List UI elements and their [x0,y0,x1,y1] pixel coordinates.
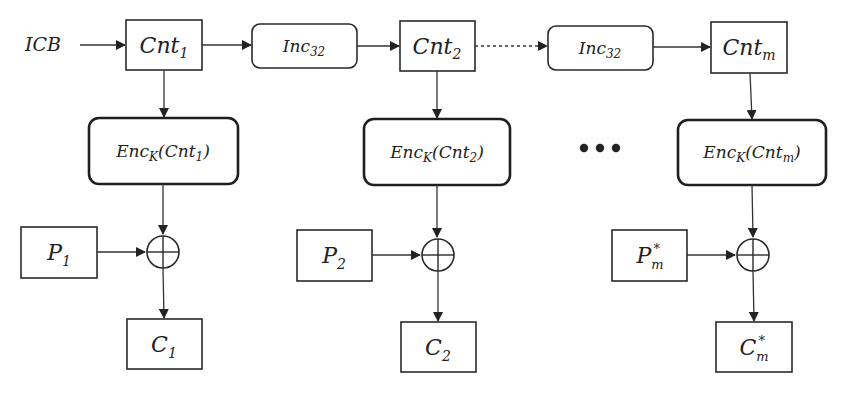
c1-sub: 1 [168,345,177,361]
cnt2-sub: 2 [451,46,461,62]
ellipsis-dots-icon [580,144,620,152]
p2-sub: 2 [336,256,346,272]
xor-icon-1 [147,236,179,268]
inc2-base: Inc [578,38,607,58]
enc2-arg: Cnt [439,142,470,162]
svg-text:Pm*: Pm* [635,241,663,272]
pm-base: P [635,243,652,268]
arrow-encm-to-xorm [752,185,753,237]
cm-base: C [739,335,756,360]
encm-base: Enc [702,142,736,162]
cnt2-base: Cnt [413,34,453,59]
pm-sub: m [651,257,663,272]
ciphertext-cm-star: Cm* [716,322,792,372]
arrow-xor1-to-c1 [163,268,164,318]
cntm-base: Cnt [722,35,762,60]
arrow-xorm-to-cm [753,271,754,321]
cm-sub: m [756,349,768,364]
plaintext-pm-star: Pm* [612,230,687,281]
c2-sub: 2 [441,348,451,364]
svg-text:Cm*: Cm* [739,333,768,364]
pm-sup: * [654,241,661,256]
counter-cntm: Cntm [711,22,787,73]
cntm-sub: m [762,47,775,63]
enc-block-1: EncK(Cnt1) [89,118,238,184]
plaintext-p2: P2 [297,230,372,281]
counter-cnt1: Cnt1 [126,20,202,70]
enc2-base: Enc [389,142,423,162]
inc1-sub: 32 [310,45,325,59]
c2-base: C [425,335,442,360]
c1-base: C [151,332,168,357]
encm-arg: Cnt [752,142,783,162]
p1-base: P [46,240,63,265]
enc1-arg: Cnt [165,141,196,161]
cm-sup: * [759,333,766,348]
increment-inc32-2: Inc32 [548,26,653,70]
xor-icon-m [737,239,769,271]
enc-block-2: EncK(Cnt2) [364,119,510,185]
plaintext-p1: P1 [21,227,97,278]
inc1-base: Inc [282,36,311,56]
arrow-cntm-to-encm [750,73,752,119]
icb-label: ICB [24,33,61,55]
cnt1-sub: 1 [179,45,188,61]
counter-cnt2: Cnt2 [400,21,475,71]
ciphertext-c1: C1 [127,319,202,369]
p1-sub: 1 [62,253,71,269]
cnt1-base: Cnt [140,33,180,58]
gctr-diagram: ICB Cnt1 Inc32 Cnt2 Inc32 Cntm [0,0,842,393]
increment-inc32-1: Inc32 [252,24,357,68]
icb-input: ICB [24,33,125,55]
ciphertext-c2: C2 [401,322,476,372]
inc2-sub: 32 [606,47,621,61]
enc-block-m: EncK(Cntm) [678,120,826,185]
xor-icon-2 [422,239,454,271]
p2-base: P [321,243,338,268]
enc1-base: Enc [115,141,149,161]
